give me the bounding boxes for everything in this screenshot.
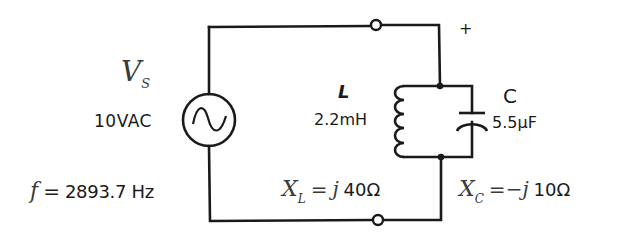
xc-minus: −: [506, 177, 523, 201]
inductor-value: 2.2mH: [314, 112, 367, 128]
capacitor-value: 5.5μF: [492, 115, 537, 131]
output-terminal-top: [371, 20, 381, 30]
capacitor-name: C: [503, 86, 517, 106]
source-symbol-subscript: S: [141, 76, 150, 91]
xc-j: j: [522, 177, 528, 201]
frequency-value: 2893.7 Hz: [65, 181, 154, 202]
source-symbol: VS: [121, 58, 150, 86]
xc-symbol: XC: [459, 176, 484, 201]
frequency-equals: =: [43, 179, 60, 203]
ac-voltage-source: [183, 94, 235, 146]
sine-wave-icon: [193, 108, 226, 130]
xl-j: j: [332, 177, 338, 201]
source-voltage-label: 10VAC: [94, 113, 152, 130]
wire-top-right: [382, 25, 440, 86]
junction-dot-top: [437, 83, 444, 90]
wire-bottom-right: [384, 157, 441, 220]
output-polarity-plus: +: [459, 21, 472, 37]
frequency-symbol: f: [30, 178, 38, 203]
source-symbol-main: V: [121, 55, 141, 88]
capacitor-reactance: XC =−j 10Ω: [459, 178, 570, 200]
source-frequency-label: f = 2893.7 Hz: [30, 180, 154, 202]
inductor-reactance: XL = j 40Ω: [282, 178, 380, 200]
xc-value: 10Ω: [534, 179, 571, 200]
tank-top-bus: [404, 86, 472, 113]
xl-value: 40Ω: [344, 179, 381, 200]
inductor-coil-icon: [395, 86, 404, 157]
xl-symbol: XL: [282, 176, 306, 201]
xc-equals: =: [489, 177, 506, 201]
xl-equals: =: [311, 177, 328, 201]
wire-top-left: [209, 26, 370, 27]
junction-dot-bottom: [438, 154, 445, 161]
inductor-name: L: [338, 83, 349, 101]
output-terminal-bottom: [373, 215, 383, 225]
